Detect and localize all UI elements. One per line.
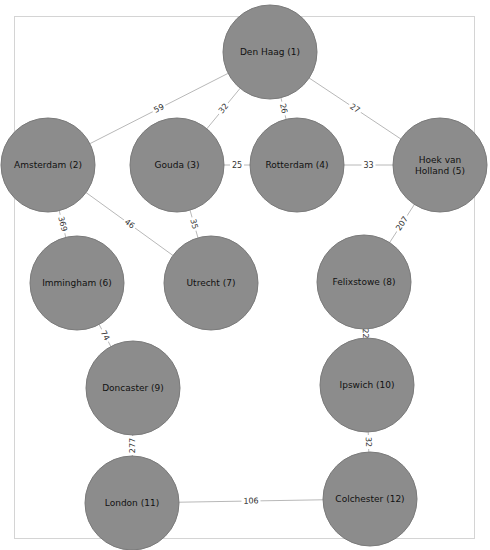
node-label: Ipswich (10)	[340, 380, 395, 390]
node-label: Doncaster (9)	[102, 383, 164, 393]
node-label: Gouda (3)	[154, 160, 199, 170]
node-label: Holland (5)	[415, 166, 465, 176]
edge-weight-label: 25	[232, 161, 242, 170]
node-label: Amsterdam (2)	[14, 160, 82, 170]
node-10: Ipswich (10)	[320, 338, 414, 432]
edge-weight-label: 106	[243, 496, 258, 505]
edge-weight-label: 22	[361, 328, 370, 338]
node-label: Felixstowe (8)	[333, 277, 396, 287]
edge-weight-label: 33	[363, 161, 373, 170]
node-3: Gouda (3)	[130, 118, 224, 212]
node-label: Rotterdam (4)	[265, 160, 328, 170]
nodes-layer: Den Haag (1)Amsterdam (2)Gouda (3)Rotter…	[1, 5, 487, 550]
node-4: Rotterdam (4)	[250, 118, 344, 212]
node-7: Utrecht (7)	[164, 236, 258, 330]
node-label: Utrecht (7)	[187, 278, 236, 288]
node-label: Colchester (12)	[335, 494, 404, 504]
edge-weight-label: 32	[364, 437, 373, 447]
node-label: Immingham (6)	[42, 278, 112, 288]
node-8: Felixstowe (8)	[317, 235, 411, 329]
node-12: Colchester (12)	[323, 452, 417, 546]
node-9: Doncaster (9)	[86, 341, 180, 435]
edge-weight-label: 369	[56, 216, 68, 233]
node-5: Hoek vanHolland (5)	[393, 118, 487, 212]
node-1: Den Haag (1)	[223, 5, 317, 99]
node-label: London (11)	[105, 498, 159, 508]
node-6: Immingham (6)	[30, 236, 124, 330]
node-2: Amsterdam (2)	[1, 118, 95, 212]
edge-weight-label: 277	[128, 438, 137, 453]
node-label: Hoek van	[419, 155, 461, 165]
node-11: London (11)	[85, 456, 179, 550]
node-label: Den Haag (1)	[240, 47, 300, 57]
network-graph: 5932262725333694635207742227732106 Den H…	[0, 0, 490, 550]
